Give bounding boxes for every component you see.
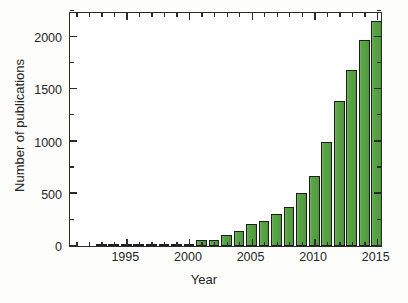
axis-tick bbox=[70, 114, 74, 115]
axis-tick bbox=[126, 13, 127, 20]
axis-tick bbox=[151, 13, 152, 17]
axis-tick bbox=[76, 13, 77, 17]
bar bbox=[309, 176, 320, 246]
axis-tick bbox=[70, 219, 74, 220]
bar bbox=[334, 101, 345, 246]
x-axis-title: Year bbox=[0, 272, 408, 287]
y-axis-tick-label: 500 bbox=[0, 188, 62, 202]
axis-tick bbox=[239, 242, 240, 246]
axis-tick bbox=[377, 62, 381, 63]
y-axis-tick-label: 0 bbox=[0, 240, 62, 254]
axis-tick bbox=[139, 242, 140, 246]
axis-tick bbox=[139, 13, 140, 17]
axis-tick bbox=[70, 140, 77, 141]
axis-tick bbox=[176, 13, 177, 17]
axis-tick bbox=[201, 242, 202, 246]
bar bbox=[346, 70, 357, 246]
axis-tick bbox=[164, 242, 165, 246]
axis-tick bbox=[70, 166, 74, 167]
axis-tick bbox=[70, 36, 77, 37]
axis-tick bbox=[377, 13, 378, 20]
axis-tick bbox=[201, 13, 202, 17]
axis-tick bbox=[339, 242, 340, 246]
axis-tick bbox=[239, 13, 240, 17]
axis-tick bbox=[101, 13, 102, 17]
axis-tick bbox=[114, 13, 115, 17]
axis-tick bbox=[277, 13, 278, 17]
axis-tick bbox=[227, 13, 228, 17]
axis-tick bbox=[374, 36, 381, 37]
axis-tick bbox=[374, 88, 381, 89]
axis-tick bbox=[377, 114, 381, 115]
axis-tick bbox=[327, 13, 328, 17]
axis-tick bbox=[374, 140, 381, 141]
axis-tick bbox=[189, 239, 190, 246]
bar bbox=[359, 40, 370, 246]
axis-tick bbox=[339, 13, 340, 17]
plot-area bbox=[70, 13, 381, 246]
chart-figure: 0500100015002000 19952000200520102015 Ye… bbox=[0, 0, 408, 303]
axis-tick bbox=[377, 166, 381, 167]
x-axis-tick-labels: 19952000200520102015 bbox=[69, 250, 382, 270]
y-axis-title: Number of publications bbox=[12, 11, 27, 241]
axis-tick bbox=[70, 192, 77, 193]
x-axis-tick-label: 2000 bbox=[174, 250, 202, 264]
axis-tick bbox=[89, 242, 90, 246]
axis-tick bbox=[126, 239, 127, 246]
axis-tick bbox=[352, 242, 353, 246]
axis-tick bbox=[377, 219, 381, 220]
axis-tick bbox=[189, 13, 190, 20]
y-axis-tick-label: 1000 bbox=[0, 136, 62, 150]
axis-tick bbox=[289, 13, 290, 17]
axis-tick bbox=[70, 88, 77, 89]
x-axis-tick-label: 2010 bbox=[299, 250, 327, 264]
x-axis-tick-label: 2015 bbox=[362, 250, 390, 264]
bar bbox=[321, 142, 332, 246]
axis-tick bbox=[214, 13, 215, 17]
axis-tick bbox=[164, 13, 165, 17]
bar bbox=[284, 207, 295, 246]
axis-tick bbox=[227, 242, 228, 246]
axis-tick bbox=[377, 239, 378, 246]
bar bbox=[371, 21, 381, 246]
axis-tick bbox=[101, 242, 102, 246]
axis-tick bbox=[89, 13, 90, 17]
axis-tick bbox=[314, 13, 315, 20]
axis-tick bbox=[114, 242, 115, 246]
axis-tick bbox=[214, 242, 215, 246]
axis-tick bbox=[264, 13, 265, 17]
axis-tick bbox=[76, 242, 77, 246]
axis-tick bbox=[377, 10, 381, 11]
axis-tick bbox=[302, 242, 303, 246]
axis-tick bbox=[252, 13, 253, 20]
axis-tick bbox=[264, 242, 265, 246]
axis-tick bbox=[151, 242, 152, 246]
axis-tick bbox=[364, 13, 365, 17]
axis-tick bbox=[314, 239, 315, 246]
axis-tick bbox=[252, 239, 253, 246]
axis-tick bbox=[302, 13, 303, 17]
x-axis-tick-label: 2005 bbox=[237, 250, 265, 264]
axis-tick bbox=[70, 10, 74, 11]
axis-tick bbox=[277, 242, 278, 246]
axis-tick bbox=[70, 62, 74, 63]
axis-tick bbox=[327, 242, 328, 246]
axis-tick bbox=[289, 242, 290, 246]
plot-frame bbox=[69, 12, 382, 247]
y-axis-tick-label: 2000 bbox=[0, 31, 62, 45]
axis-tick bbox=[352, 13, 353, 17]
bar bbox=[296, 193, 307, 246]
axis-tick bbox=[374, 192, 381, 193]
y-axis-tick-label: 1500 bbox=[0, 83, 62, 97]
axis-tick bbox=[176, 242, 177, 246]
axis-tick bbox=[364, 242, 365, 246]
x-axis-tick-label: 1995 bbox=[111, 250, 139, 264]
